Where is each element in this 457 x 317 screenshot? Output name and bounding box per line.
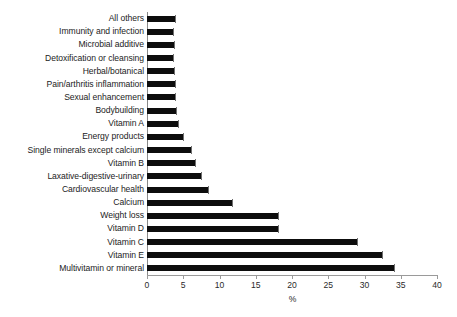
bar-row — [147, 38, 437, 51]
tick-label: 5 — [168, 280, 198, 290]
bar-row — [147, 222, 437, 235]
category-label: Calcium — [1, 197, 144, 207]
tick-label: 10 — [205, 280, 235, 290]
bar — [147, 252, 382, 258]
bar-row — [147, 170, 437, 183]
category-label: Detoxification or cleansing — [1, 53, 144, 63]
bar-end-cap — [278, 225, 279, 233]
tick-label: 0 — [132, 280, 162, 290]
bar — [147, 121, 178, 127]
bar-row — [147, 12, 437, 25]
tick-label: 30 — [350, 280, 380, 290]
bar — [147, 94, 175, 100]
bar-end-cap — [382, 251, 383, 259]
bar-end-cap — [191, 146, 192, 154]
bar-end-cap — [174, 41, 175, 49]
category-label: Cardiovascular health — [1, 184, 144, 194]
bar-row — [147, 25, 437, 38]
bar — [147, 55, 173, 61]
bar-end-cap — [394, 264, 395, 272]
bar-row — [147, 91, 437, 104]
category-label: Vitamin A — [1, 118, 144, 128]
bar-row — [147, 236, 437, 249]
tick-mark — [401, 276, 402, 279]
category-label: Single minerals except calcium — [1, 145, 144, 155]
tick-label: 35 — [386, 280, 416, 290]
tick-label: 20 — [277, 280, 307, 290]
bar — [147, 173, 201, 179]
bar — [147, 265, 394, 271]
bar-row — [147, 51, 437, 64]
tick-mark — [437, 276, 438, 279]
category-label: Pain/arthritis inflammation — [1, 79, 144, 89]
category-label: Energy products — [1, 131, 144, 141]
bar — [147, 16, 175, 22]
category-label: Sexual enhancement — [1, 92, 144, 102]
tick-mark — [183, 276, 184, 279]
bar-row — [147, 78, 437, 91]
category-label: Multivitamin or mineral — [1, 263, 144, 273]
bar-end-cap — [183, 133, 184, 141]
category-label: All others — [1, 13, 144, 23]
bar-end-cap — [176, 107, 177, 115]
category-label: Immunity and infection — [1, 26, 144, 36]
bar — [147, 213, 278, 219]
bar — [147, 200, 232, 206]
tick-label: 25 — [313, 280, 343, 290]
category-label: Laxative-digestive-urinary — [1, 171, 144, 181]
bar-row — [147, 157, 437, 170]
category-label: Vitamin D — [1, 223, 144, 233]
bar-end-cap — [357, 238, 358, 246]
bar-end-cap — [201, 172, 202, 180]
category-label: Microbial additive — [1, 39, 144, 49]
bar-end-cap — [174, 67, 175, 75]
category-label: Vitamin B — [1, 158, 144, 168]
bar-end-cap — [178, 120, 179, 128]
bar-row — [147, 104, 437, 117]
bar-row — [147, 249, 437, 262]
bar-end-cap — [278, 212, 279, 220]
bar — [147, 42, 174, 48]
category-label: Vitamin C — [1, 237, 144, 247]
bar-row — [147, 117, 437, 130]
tick-mark — [365, 276, 366, 279]
bar — [147, 147, 191, 153]
bar-row — [147, 262, 437, 275]
bar — [147, 81, 175, 87]
x-axis-title: % — [147, 294, 438, 304]
bar — [147, 68, 174, 74]
bar — [147, 108, 176, 114]
bar-end-cap — [232, 199, 233, 207]
category-label: Bodybuilding — [1, 105, 144, 115]
category-label: Herbal/botanical — [1, 66, 144, 76]
bar-row — [147, 65, 437, 78]
bar — [147, 29, 173, 35]
bar-row — [147, 183, 437, 196]
category-label: Vitamin E — [1, 250, 144, 260]
bar — [147, 134, 183, 140]
tick-mark — [328, 276, 329, 279]
bar — [147, 187, 208, 193]
bar-row — [147, 209, 437, 222]
horizontal-bar-chart: All othersImmunity and infectionMicrobia… — [0, 0, 457, 317]
bar-row — [147, 144, 437, 157]
bar-end-cap — [208, 186, 209, 194]
tick-mark — [220, 276, 221, 279]
bar-row — [147, 130, 437, 143]
tick-mark — [147, 276, 148, 279]
bar-row — [147, 196, 437, 209]
tick-mark — [292, 276, 293, 279]
bar-end-cap — [173, 28, 174, 36]
bar-end-cap — [175, 80, 176, 88]
tick-label: 15 — [241, 280, 271, 290]
tick-label: 40 — [422, 280, 452, 290]
bar — [147, 239, 357, 245]
category-axis-labels: All othersImmunity and infectionMicrobia… — [0, 12, 144, 275]
bar-end-cap — [175, 15, 176, 23]
bar-end-cap — [175, 93, 176, 101]
bar — [147, 226, 278, 232]
bar-end-cap — [195, 159, 196, 167]
bar — [147, 160, 195, 166]
bar-end-cap — [173, 54, 174, 62]
category-label: Weight loss — [1, 210, 144, 220]
